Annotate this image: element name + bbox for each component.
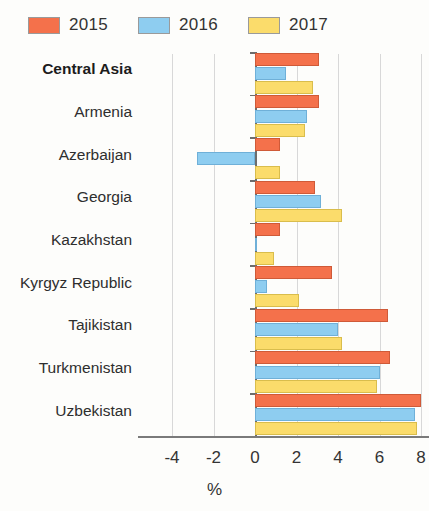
- bar-central-asia-2017: [255, 81, 313, 94]
- category-label-georgia: Georgia: [77, 188, 132, 206]
- gridline: [214, 54, 215, 436]
- legend-swatch-2016: [138, 17, 170, 34]
- legend-label-2015: 2015: [69, 15, 108, 35]
- bar-tajikistan-2017: [255, 337, 342, 350]
- bar-kyrgyz-republic-2017: [255, 294, 299, 307]
- bar-central-asia-2015: [255, 53, 319, 66]
- x-tick-label--4: -4: [164, 448, 179, 468]
- gridline: [380, 54, 381, 436]
- legend-swatch-2015: [28, 17, 60, 34]
- bar-tajikistan-2015: [255, 309, 388, 322]
- category-label-kyrgyz-republic: Kyrgyz Republic: [20, 274, 132, 292]
- legend-label-2016: 2016: [179, 15, 218, 35]
- bar-kazakhstan-2017: [255, 252, 274, 265]
- x-tick-label-2: 2: [292, 448, 301, 468]
- bar-georgia-2015: [255, 181, 315, 194]
- chart-legend: 2015 2016 2017: [28, 12, 328, 38]
- bar-central-asia-2016: [255, 67, 286, 80]
- bar-uzbekistan-2016: [255, 408, 415, 421]
- category-label-azerbaijan: Azerbaijan: [59, 146, 132, 164]
- bar-uzbekistan-2017: [255, 422, 417, 435]
- gridline: [421, 54, 422, 436]
- bar-tajikistan-2016: [255, 323, 338, 336]
- legend-item-2016: 2016: [138, 15, 218, 35]
- x-tick-label--2: -2: [206, 448, 221, 468]
- legend-swatch-2017: [248, 17, 280, 34]
- bar-kazakhstan-2016: [255, 238, 257, 251]
- x-tick-label-8: 8: [416, 448, 425, 468]
- legend-item-2017: 2017: [248, 15, 328, 35]
- bar-armenia-2017: [255, 124, 305, 137]
- bar-georgia-2017: [255, 209, 342, 222]
- bar-azerbaijan-2016: [197, 152, 255, 165]
- category-label-kazakhstan: Kazakhstan: [51, 231, 132, 249]
- x-tick-label-4: 4: [333, 448, 342, 468]
- bar-kyrgyz-republic-2016: [255, 280, 267, 293]
- bar-kyrgyz-republic-2015: [255, 266, 332, 279]
- category-label-central-asia: Central Asia: [42, 60, 132, 78]
- bar-uzbekistan-2015: [255, 394, 421, 407]
- category-label-uzbekistan: Uzbekistan: [55, 402, 132, 420]
- bar-armenia-2016: [255, 110, 307, 123]
- bar-armenia-2015: [255, 95, 319, 108]
- legend-label-2017: 2017: [289, 15, 328, 35]
- gridline: [338, 54, 339, 436]
- plot-area: [138, 52, 429, 446]
- x-tick-label-0: 0: [250, 448, 259, 468]
- category-label-armenia: Armenia: [74, 103, 132, 121]
- legend-item-2015: 2015: [28, 15, 108, 35]
- bar-chart: Central AsiaArmeniaAzerbaijanGeorgiaKaza…: [0, 52, 429, 456]
- category-label-tajikistan: Tajikistan: [68, 316, 132, 334]
- gridline: [172, 54, 173, 436]
- x-axis-line: [138, 436, 429, 438]
- category-label-turkmenistan: Turkmenistan: [39, 359, 132, 377]
- bar-turkmenistan-2016: [255, 366, 380, 379]
- x-tick-label-6: 6: [375, 448, 384, 468]
- bar-georgia-2016: [255, 195, 321, 208]
- bar-turkmenistan-2017: [255, 380, 377, 393]
- bar-turkmenistan-2015: [255, 351, 390, 364]
- bar-azerbaijan-2015: [255, 138, 280, 151]
- x-axis-title: %: [0, 480, 429, 500]
- bar-kazakhstan-2015: [255, 223, 280, 236]
- x-axis-ticks: -4-202468: [138, 448, 429, 474]
- bar-azerbaijan-2017: [255, 166, 280, 179]
- category-axis: Central AsiaArmeniaAzerbaijanGeorgiaKaza…: [0, 52, 138, 446]
